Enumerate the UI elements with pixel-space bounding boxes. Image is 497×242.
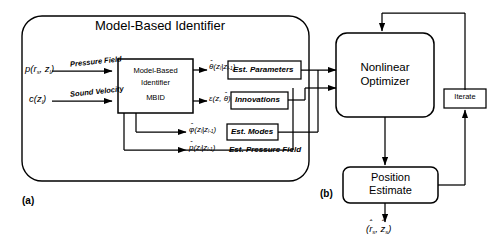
sub-l: l (42, 99, 43, 105)
phi-hat-group: ˆφ (189, 126, 194, 134)
sub-l: l (50, 69, 51, 75)
position-estimate-line-2: Estimate (343, 185, 438, 197)
innovations-signal: ε(z, ˆθ) (209, 95, 231, 103)
comma-z: , z (40, 63, 50, 74)
args-z: (z, (213, 94, 224, 103)
hat-mark: ˆ (189, 140, 193, 148)
hat-mark: ˆ (369, 219, 372, 228)
input-sound-variable: c(zl) (29, 94, 46, 104)
hat-mark: ˆ (381, 219, 386, 228)
theta-hat-group: ˆθ (224, 95, 228, 103)
theta-hat-signal: ˆθ(zl|zl-1) (209, 63, 235, 71)
paren-open: (z (213, 62, 220, 71)
sub-s: s (372, 229, 375, 235)
hat-mark: ˆ (209, 59, 213, 67)
mbid-line-3: MBID (122, 94, 189, 102)
innovations-label: Innovations (235, 96, 280, 104)
paren-close: ) (228, 94, 231, 103)
panel-a-title: Model-Based Identifier (95, 19, 225, 33)
figure-canvas: Model-Based Identifier Pressure Field So… (0, 0, 497, 242)
sub-l-1: l-1 (208, 129, 214, 134)
diagram-lines (0, 0, 497, 242)
p-hat-group: ˆp (189, 144, 193, 152)
nonlinear-optimizer-line-1: Nonlinear (336, 61, 434, 73)
input-pressure-variable: p(rs, zl) (25, 64, 54, 74)
est-pressure-field-label: Est. Pressure Field (229, 146, 301, 154)
iterate-label: Iterate (444, 93, 486, 101)
est-modes-label: Est. Modes (231, 128, 273, 136)
mbid-line-2: Identifier (122, 79, 189, 87)
est-modes-signal: ˆφ(zl|zl-1) (189, 126, 216, 134)
est-parameters-label: Est. Parameters (233, 66, 293, 74)
sub-l-1: l-1 (207, 147, 213, 152)
sub-l: l (220, 66, 221, 71)
paren-close: ) (388, 223, 391, 234)
sub-l-1: l-1 (227, 66, 233, 71)
mbid-line-1: Model-Based (122, 67, 189, 75)
paren-close: ) (43, 93, 46, 104)
panel-b-letter: (b) (320, 189, 333, 200)
sub-s: s (37, 69, 40, 75)
est-pressure-signal: ˆp(zl|zl-1) (189, 144, 216, 152)
paren-close: ) (213, 143, 216, 152)
theta-hat-group: ˆθ (209, 63, 213, 71)
paren-close: ) (51, 63, 54, 74)
position-estimate-line-1: Position (343, 172, 438, 184)
sub-s: s (385, 229, 388, 235)
nonlinear-optimizer-line-2: Optimizer (336, 75, 434, 87)
paren-open: (r (30, 63, 36, 74)
panel-a-letter: (a) (22, 196, 34, 207)
sub-l: l (201, 129, 202, 134)
paren-open: (z (194, 125, 201, 134)
hat-mark: ˆ (189, 122, 194, 130)
final-output-label: (ˆrs, ˆzs) (366, 224, 391, 234)
paren-open: (z (34, 93, 42, 104)
hat-mark: ˆ (224, 91, 228, 99)
